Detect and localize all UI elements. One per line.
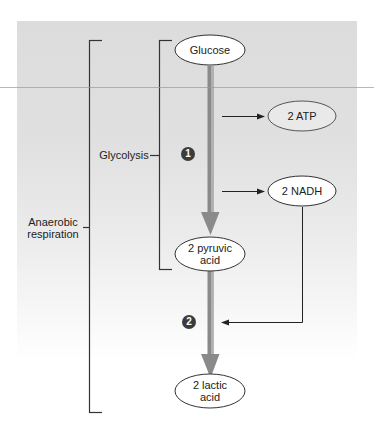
anaerobic-respiration-bracket xyxy=(83,40,102,413)
lactic-acid-node: 2 lactic acid xyxy=(175,374,245,408)
fermentation-arrow xyxy=(201,270,220,378)
pyruvic-acid-node: 2 pyruvic acid xyxy=(175,237,245,271)
glycolysis-label: Glycolysis xyxy=(98,149,150,161)
glucose-node: Glucose xyxy=(175,35,245,65)
step-2-badge: 2 xyxy=(182,315,196,329)
scan-artifact-line xyxy=(0,87,374,88)
glycolysis-arrow xyxy=(201,66,220,235)
anaerobic-respiration-label: Anaerobic respiration xyxy=(22,216,84,240)
glycolysis-bracket xyxy=(150,40,172,270)
atp-node: 2 ATP xyxy=(268,101,336,131)
nadh-node: 2 NADH xyxy=(268,176,336,206)
step-1-badge: 1 xyxy=(181,147,195,161)
label-line-2: respiration xyxy=(22,228,84,240)
label-line-1: Anaerobic xyxy=(22,216,84,228)
